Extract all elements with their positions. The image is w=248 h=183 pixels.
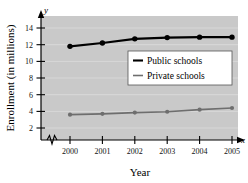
x-tick-label-2000: 2000 bbox=[62, 147, 78, 156]
x-tick-label-2002: 2002 bbox=[127, 147, 143, 156]
chart-legend: Public schools Private schools bbox=[128, 51, 232, 85]
x-axis-tick-labels: 2000 2001 2002 2003 2004 2005 bbox=[62, 147, 240, 156]
private-point-2000 bbox=[68, 113, 72, 117]
x-tick-label-2004: 2004 bbox=[192, 147, 208, 156]
y-axis-variable-label: y bbox=[43, 5, 48, 15]
private-point-2001 bbox=[100, 112, 104, 116]
public-point-2000 bbox=[67, 44, 72, 49]
x-tick-label-2003: 2003 bbox=[159, 147, 175, 156]
private-point-2003 bbox=[165, 110, 169, 114]
public-point-2005 bbox=[229, 34, 234, 39]
public-point-2003 bbox=[165, 35, 170, 40]
private-point-2005 bbox=[230, 106, 234, 110]
y-tick-label-12: 12 bbox=[25, 41, 33, 50]
y-tick-label-2: 2 bbox=[29, 124, 33, 133]
x-axis-title: Year bbox=[130, 166, 151, 178]
legend-label-private-schools: Private schools bbox=[147, 71, 205, 81]
y-axis-tick-labels: 14 12 10 8 6 4 2 bbox=[25, 24, 33, 133]
public-point-2004 bbox=[197, 34, 202, 39]
public-point-2002 bbox=[132, 36, 137, 41]
y-axis-title: Enrollment (in millions) bbox=[4, 24, 17, 131]
legend-label-public-schools: Public schools bbox=[147, 56, 202, 66]
y-tick-label-8: 8 bbox=[29, 74, 33, 83]
x-tick-label-2005: 2005 bbox=[224, 147, 240, 156]
private-point-2004 bbox=[198, 108, 202, 112]
x-tick-label-2001: 2001 bbox=[94, 147, 110, 156]
chart-canvas: 14 12 10 8 6 4 2 2000 2001 2002 2003 200… bbox=[0, 0, 248, 183]
y-tick-label-10: 10 bbox=[25, 57, 33, 66]
x-axis-variable-label: x bbox=[240, 135, 245, 145]
y-tick-label-4: 4 bbox=[29, 107, 33, 116]
public-point-2001 bbox=[100, 40, 105, 45]
y-tick-label-14: 14 bbox=[25, 24, 33, 33]
private-point-2002 bbox=[133, 110, 137, 114]
y-tick-label-6: 6 bbox=[29, 91, 33, 100]
enrollment-line-chart-figure: 14 12 10 8 6 4 2 2000 2001 2002 2003 200… bbox=[0, 0, 248, 183]
